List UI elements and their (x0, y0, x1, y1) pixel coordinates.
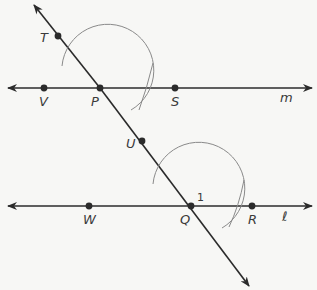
point-u (139, 138, 146, 145)
geometry-diagram: T V P S U m W Q R ℓ 1 (0, 0, 317, 290)
label-p: P (91, 94, 99, 109)
angle-1-label: 1 (197, 191, 204, 204)
label-l: ℓ (281, 209, 287, 224)
construction-arc-q (153, 142, 245, 228)
label-m: m (280, 90, 293, 105)
point-s (172, 85, 179, 92)
label-u: U (126, 136, 136, 151)
label-r: R (248, 212, 257, 227)
label-w: W (83, 212, 97, 227)
point-w (86, 203, 93, 210)
label-q: Q (180, 212, 190, 227)
label-v: V (39, 94, 49, 109)
point-v (41, 85, 48, 92)
point-t (55, 33, 62, 40)
construction-arc-p (62, 24, 154, 110)
label-s: S (171, 94, 179, 109)
point-r (249, 203, 256, 210)
point-q (188, 203, 195, 210)
point-p (97, 85, 104, 92)
label-t: T (40, 30, 49, 45)
